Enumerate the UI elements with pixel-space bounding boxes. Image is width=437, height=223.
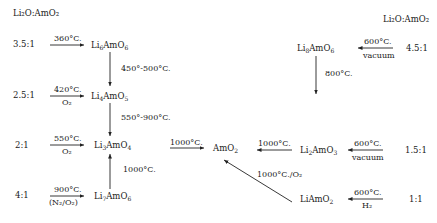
ratio-2-5: 2.5:1 xyxy=(13,91,35,100)
cond-600-b-atm: vacuum xyxy=(352,154,384,162)
cond-550-900: 550°-900°C. xyxy=(121,114,171,122)
header-left: Li₂O:AmO₂ xyxy=(13,9,59,18)
ratio-4-5: 4.5:1 xyxy=(406,44,428,53)
ratio-4: 4:1 xyxy=(15,191,29,200)
arrow-1000-diag xyxy=(224,160,292,202)
cond-1000-up: 1000°C. xyxy=(123,166,156,174)
cond-450-500: 450°-500°C. xyxy=(121,65,171,73)
ratio-1-5: 1.5:1 xyxy=(405,146,427,155)
cond-600-c-atm: H₂ xyxy=(362,202,372,210)
compound-li3amo4: Li3AmO4 xyxy=(94,141,131,150)
ratio-1: 1:1 xyxy=(409,195,423,204)
cond-600-a: 600°C. xyxy=(364,38,392,46)
cond-550: 550°C. xyxy=(54,135,82,143)
cond-800: 800°C. xyxy=(325,70,353,78)
compound-li8amo6: Li8AmO6 xyxy=(297,44,334,53)
compound-li4amo5: Li4AmO5 xyxy=(91,92,128,101)
cond-360: 360°C. xyxy=(54,35,82,43)
cond-600-a-atm: vacuum xyxy=(363,52,395,60)
compound-li7amo6: Li7AmO6 xyxy=(94,192,131,201)
cond-1000-diag: 1000°C./O₂ xyxy=(257,171,302,179)
header-right: Li₂O:AmO₂ xyxy=(383,15,429,24)
cond-900-atm: (N₂/O₂) xyxy=(49,199,78,207)
cond-600-c: 600°C. xyxy=(354,189,382,197)
cond-550-atm: O₂ xyxy=(62,148,72,156)
compound-li2amo3: Li2AmO3 xyxy=(300,146,337,155)
cond-420: 420°C. xyxy=(54,86,82,94)
compound-liamo2: LiAmO2 xyxy=(300,195,333,204)
compound-li6amo6: Li6AmO6 xyxy=(91,41,128,50)
cond-1000-left: 1000°C. xyxy=(258,140,291,148)
cond-420-atm: O₂ xyxy=(62,99,72,107)
cond-900: 900°C. xyxy=(54,186,82,194)
cond-1000-right: 1000°C. xyxy=(170,139,203,147)
ratio-3-5: 3.5:1 xyxy=(13,40,35,49)
cond-600-b: 600°C. xyxy=(354,140,382,148)
ratio-2: 2:1 xyxy=(15,141,29,150)
compound-amo2: AmO2 xyxy=(213,144,238,153)
